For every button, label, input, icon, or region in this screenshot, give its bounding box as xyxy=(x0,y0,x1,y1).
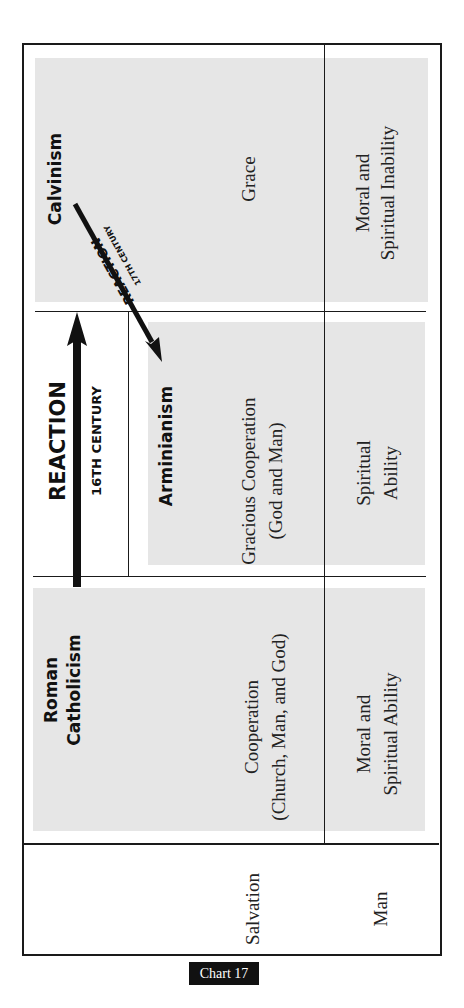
cell-arminianism-man: Spiritual Ability xyxy=(350,423,400,523)
cell-roman-man-line1: Moral and xyxy=(350,659,377,809)
row-label-man: Man xyxy=(369,879,393,939)
reaction-16-label: REACTION xyxy=(45,371,71,511)
cell-roman-salvation-line1: Cooperation xyxy=(238,617,265,837)
chart-caption: Chart 17 xyxy=(189,962,259,985)
reaction-16-sublabel: 16TH CENTURY xyxy=(88,366,106,516)
header-calvinism: Calvinism xyxy=(44,119,66,239)
cell-roman-man-line2: Spiritual Ability xyxy=(377,659,404,809)
row-label-salvation: Salvation xyxy=(241,854,265,964)
header-arminianism: Arminianism xyxy=(155,366,177,526)
cell-roman-salvation-line2: (Church, Man, and God) xyxy=(265,617,292,837)
cell-calvinism-man-line1: Moral and xyxy=(350,103,375,283)
cell-calvinism-salvation: Grace xyxy=(237,139,261,219)
cell-arminianism-man-line1: Spiritual xyxy=(350,423,377,523)
cell-calvinism-man-line2: Spiritual Inability xyxy=(375,103,400,283)
cell-roman-salvation: Cooperation (Church, Man, and God) xyxy=(238,617,288,837)
header-roman-line2: Catholicism xyxy=(63,620,86,760)
header-roman-line1: Roman xyxy=(40,620,63,760)
cell-arminianism-salvation-line1: Gracious Cooperation xyxy=(235,376,262,586)
cell-arminianism-salvation: Gracious Cooperation (God and Man) xyxy=(235,376,285,586)
header-roman-catholicism: Roman Catholicism xyxy=(40,620,86,760)
cell-calvinism-man: Moral and Spiritual Inability xyxy=(350,103,400,283)
cell-roman-man: Moral and Spiritual Ability xyxy=(350,659,400,809)
cell-arminianism-salvation-line2: (God and Man) xyxy=(262,376,289,586)
cell-arminianism-man-line2: Ability xyxy=(377,423,404,523)
